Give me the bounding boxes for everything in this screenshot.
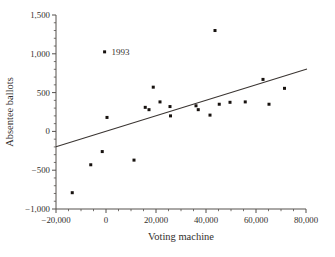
data-point (148, 108, 151, 111)
data-point (169, 105, 172, 108)
data-point (101, 150, 104, 153)
axes (56, 15, 306, 209)
data-point (214, 29, 217, 32)
data-point (159, 100, 162, 103)
x-tick-label: 20,000 (144, 215, 169, 225)
y-tick-label: 1,000 (30, 49, 50, 59)
y-axis-title: Absentee ballots (4, 77, 15, 147)
data-point (244, 100, 247, 103)
data-point (71, 191, 74, 194)
data-point (197, 108, 200, 111)
regression-line (56, 69, 307, 147)
scatter-figure: −20,000020,00040,00060,00080,000−1,000−5… (0, 0, 335, 257)
annotation-1993-label: 1993 (112, 47, 131, 57)
data-point (268, 103, 271, 106)
y-tick-label: −1,000 (25, 204, 50, 214)
x-tick-label: 40,000 (194, 215, 219, 225)
data-point (103, 50, 106, 53)
x-tick-label: 0 (104, 215, 109, 225)
data-point (209, 114, 212, 117)
data-point (283, 87, 286, 90)
data-point (152, 86, 155, 89)
data-point (133, 159, 136, 162)
y-tick-label: 500 (37, 88, 51, 98)
data-point (195, 104, 198, 107)
y-tick-label: 1,500 (30, 10, 50, 20)
data-point (106, 116, 109, 119)
scatter-plot: −20,000020,00040,00060,00080,000−1,000−5… (0, 0, 335, 257)
x-tick-label: 60,000 (244, 215, 269, 225)
data-point (144, 106, 147, 109)
data-point (169, 114, 172, 117)
x-tick-label: −20,000 (41, 215, 71, 225)
x-axis-title: Voting machine (148, 231, 214, 242)
y-tick-label: −500 (32, 165, 51, 175)
axis-ticks (52, 15, 306, 213)
data-points-layer (71, 29, 286, 194)
data-point (262, 78, 265, 81)
data-point (229, 101, 232, 104)
tick-labels: −20,000020,00040,00060,00080,000−1,000−5… (25, 10, 318, 225)
data-point (89, 163, 92, 166)
regression-line-layer (56, 69, 307, 147)
data-point (218, 103, 221, 106)
y-tick-label: 0 (46, 126, 51, 136)
x-tick-label: 80,000 (294, 215, 319, 225)
